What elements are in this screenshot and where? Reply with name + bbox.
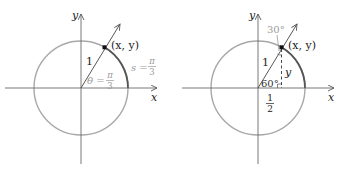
angle-leader-line (277, 35, 279, 51)
svg-text:θ =: θ = (87, 75, 105, 86)
svg-text:3: 3 (149, 67, 154, 77)
arc-length-label: s = π 3 (131, 56, 156, 77)
base-label: 1 2 (266, 93, 274, 114)
x-axis-label: x (151, 91, 158, 104)
bottom-angle-label: 60° (261, 78, 279, 89)
svg-text:π: π (106, 70, 113, 80)
radius-label: 1 (86, 55, 93, 68)
right-figure: y x (x, y) 1 30° 60° y 1 2 (182, 9, 335, 164)
svg-text:s =: s = (131, 62, 148, 73)
y-axis-label: y (71, 9, 79, 22)
svg-text:2: 2 (267, 104, 273, 114)
radius-label: 1 (262, 56, 269, 69)
svg-text:π: π (148, 56, 155, 66)
point-marker (280, 45, 284, 49)
y-axis-label: y (248, 9, 256, 22)
height-label: y (284, 66, 292, 79)
point-marker (103, 45, 107, 49)
top-angle-label: 30° (267, 24, 285, 35)
point-label: (x, y) (111, 39, 139, 52)
unit-circle-diagrams: y x (x, y) 1 θ = π 3 s = π 3 (0, 0, 340, 176)
point-label: (x, y) (288, 39, 316, 52)
svg-text:3: 3 (107, 81, 112, 91)
svg-text:1: 1 (267, 93, 273, 103)
left-figure: y x (x, y) 1 θ = π 3 s = π 3 (5, 9, 158, 164)
x-axis-label: x (328, 91, 335, 104)
